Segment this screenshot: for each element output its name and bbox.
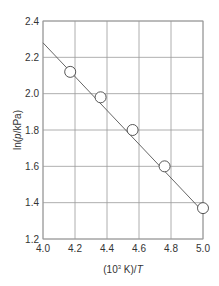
x-axis-ticks: 4.04.24.44.64.85.0 bbox=[36, 243, 210, 254]
data-point bbox=[198, 203, 209, 214]
y-tick-label: 2.2 bbox=[25, 52, 39, 63]
x-tick-label: 4.8 bbox=[164, 243, 178, 254]
x-tick-label: 4.2 bbox=[68, 243, 82, 254]
data-point bbox=[127, 125, 138, 136]
x-tick-label: 4.6 bbox=[132, 243, 146, 254]
y-axis-label: ln(p/kPa) bbox=[12, 110, 23, 150]
y-tick-label: 1.8 bbox=[25, 125, 39, 136]
y-axis-ticks: 1.21.41.61.82.02.22.4 bbox=[25, 16, 39, 245]
y-tick-label: 1.6 bbox=[25, 161, 39, 172]
chart: 4.04.24.44.64.85.0 1.21.41.61.82.02.22.4… bbox=[0, 0, 219, 286]
x-tick-label: 5.0 bbox=[196, 243, 210, 254]
data-point bbox=[159, 161, 170, 172]
y-tick-label: 1.2 bbox=[25, 234, 39, 245]
data-point bbox=[65, 66, 76, 77]
y-tick-label: 2.0 bbox=[25, 88, 39, 99]
grid bbox=[43, 21, 203, 239]
x-tick-label: 4.0 bbox=[36, 243, 50, 254]
x-tick-label: 4.4 bbox=[100, 243, 114, 254]
y-tick-label: 2.4 bbox=[25, 16, 39, 27]
x-axis-label: (103 K)/T bbox=[103, 264, 143, 275]
y-tick-label: 1.4 bbox=[25, 197, 39, 208]
data-point bbox=[95, 92, 106, 103]
